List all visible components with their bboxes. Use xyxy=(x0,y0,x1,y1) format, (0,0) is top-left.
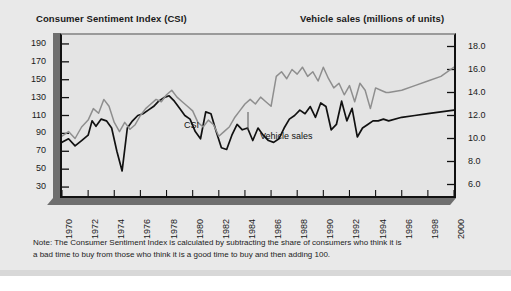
y-axis-left-tick-label-8: 30 xyxy=(12,181,46,191)
y-axis-right-tick-label-2: 14.0 xyxy=(468,87,502,97)
plot-frame: CSI Vehicle sales xyxy=(53,33,463,213)
y-axis-left-tick-label-1: 170 xyxy=(12,56,46,66)
plot-svg xyxy=(62,35,454,196)
y-axis-left-tick-label-7: 50 xyxy=(12,163,46,173)
y-axis-right-tick-label-0: 18.0 xyxy=(468,41,502,51)
series-annotation-csi: CSI xyxy=(184,120,199,130)
y-axis-left-tick-label-4: 110 xyxy=(12,110,46,120)
x-axis-tick-label-12: 1994 xyxy=(378,219,388,239)
series-line-csi xyxy=(62,96,454,171)
y-axis-right-tick-label-4: 10.0 xyxy=(468,133,502,143)
y-axis-right-tick-label-3: 12.0 xyxy=(468,110,502,120)
x-axis-tick-label-14: 1998 xyxy=(430,219,440,239)
x-axis-tick-label-10: 1990 xyxy=(325,219,335,239)
plot-area: CSI Vehicle sales xyxy=(60,33,456,198)
plot-frame-bottom-slab xyxy=(47,198,456,205)
series-annotation-vehicle-sales: Vehicle sales xyxy=(260,131,313,141)
y-axis-left-tick-label-5: 90 xyxy=(12,127,46,137)
x-axis-tick-label-3: 1976 xyxy=(142,219,152,239)
x-axis-tick-label-15: 2000 xyxy=(456,219,466,239)
y-axis-left-tick-label-2: 150 xyxy=(12,74,46,84)
x-axis-tick-label-13: 1996 xyxy=(404,219,414,239)
figure-card-bottom-edge xyxy=(0,270,511,276)
y-axis-left-tick-label-3: 130 xyxy=(12,92,46,102)
x-axis-tick-label-6: 1982 xyxy=(221,219,231,239)
x-axis-tick-label-7: 1984 xyxy=(247,219,257,239)
y-axis-right-ticks: 18.016.014.012.010.08.06.0 xyxy=(468,33,508,198)
y-axis-right-tick-label-1: 16.0 xyxy=(468,64,502,74)
plot-frame-left-slab xyxy=(53,33,60,205)
figure-note-line-2: a bad time to buy from those who think i… xyxy=(33,249,485,261)
x-axis-tick-label-5: 1980 xyxy=(195,219,205,239)
figure-root: Consumer Sentiment Index (CSI) Vehicle s… xyxy=(0,0,511,291)
x-axis-tick-label-1: 1972 xyxy=(90,219,100,239)
x-axis-tick-label-11: 1992 xyxy=(351,219,361,239)
x-axis-tick-label-8: 1986 xyxy=(273,219,283,239)
x-axis-tick-label-0: 1970 xyxy=(64,219,74,239)
y-axis-right-tick-label-5: 8.0 xyxy=(468,156,502,166)
page-title-right: Vehicle sales (millions of units) xyxy=(300,13,444,24)
figure-note-line-1: Note: The Consumer Sentiment Index is ca… xyxy=(33,237,485,249)
x-axis-tick-label-9: 1988 xyxy=(299,219,309,239)
x-axis-tick-label-2: 1974 xyxy=(116,219,126,239)
y-axis-left-tick-label-6: 70 xyxy=(12,145,46,155)
y-axis-right-tick-label-6: 6.0 xyxy=(468,179,502,189)
figure-note: Note: The Consumer Sentiment Index is ca… xyxy=(33,237,485,260)
page-title-left: Consumer Sentiment Index (CSI) xyxy=(36,13,187,24)
x-axis-tick-label-4: 1978 xyxy=(169,219,179,239)
y-axis-left-ticks: 19017015013011090705030 xyxy=(12,33,46,198)
y-axis-left-tick-label-0: 190 xyxy=(12,38,46,48)
